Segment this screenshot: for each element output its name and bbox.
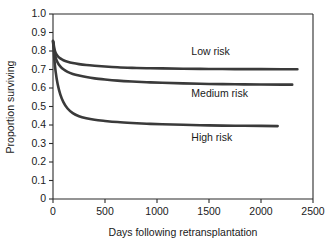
y-tick-label: 0.2 xyxy=(31,155,46,167)
series-label-high-risk: High risk xyxy=(191,131,233,143)
x-tick-label: 1000 xyxy=(145,205,169,217)
curve-low-risk xyxy=(53,41,297,69)
y-tick-label: 0 xyxy=(40,192,46,204)
y-axis: 00.10.20.30.40.50.60.70.80.91.0 xyxy=(31,7,53,204)
y-tick-label: 0.7 xyxy=(31,63,46,75)
x-axis: 05001000150020002500 xyxy=(50,199,325,217)
y-tick-label: 0.6 xyxy=(31,81,46,93)
series-label-medium-risk: Medium risk xyxy=(191,87,248,99)
y-tick-label: 0.9 xyxy=(31,26,46,38)
survival-curve-figure: 00.10.20.30.40.50.60.70.80.91.0 05001000… xyxy=(0,0,327,245)
y-tick-label: 0.1 xyxy=(31,174,46,186)
x-tick-label: 2500 xyxy=(301,205,325,217)
series-label-low-risk: Low risk xyxy=(191,45,230,57)
plot-frame xyxy=(53,14,313,199)
x-tick-label: 1500 xyxy=(197,205,221,217)
y-tick-label: 1.0 xyxy=(31,7,46,19)
y-tick-label: 0.5 xyxy=(31,100,46,112)
data-series-group xyxy=(53,41,297,126)
series-label-group: Low riskMedium riskHigh risk xyxy=(191,45,248,143)
plot-canvas: 00.10.20.30.40.50.60.70.80.91.0 05001000… xyxy=(0,0,327,245)
x-tick-label: 0 xyxy=(50,205,56,217)
y-tick-label: 0.4 xyxy=(31,118,46,130)
x-tick-label: 500 xyxy=(96,205,114,217)
curve-medium-risk xyxy=(53,41,292,84)
x-tick-label: 2000 xyxy=(249,205,273,217)
y-tick-label: 0.3 xyxy=(31,137,46,149)
y-axis-title: Proportion surviving xyxy=(4,60,16,153)
x-axis-title: Days following retransplantation xyxy=(109,226,258,238)
y-tick-label: 0.8 xyxy=(31,44,46,56)
